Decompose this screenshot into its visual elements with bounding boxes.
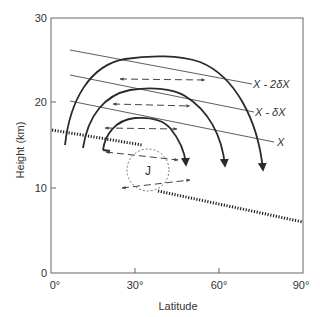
y-tick-30: 30 <box>35 12 47 24</box>
x-tick-0: 0° <box>50 279 61 291</box>
diagram: 0 10 20 30 0° 30° 60° 90° Latitude Heigh… <box>0 0 320 317</box>
tropopause-dotted-line <box>52 130 303 222</box>
x-tick-90: 90° <box>293 279 310 291</box>
x-axis-title: Latitude <box>158 300 197 312</box>
y-tick-10: 10 <box>35 182 47 194</box>
y-axis-title: Height (km) <box>14 122 26 179</box>
x-tick-30: 30° <box>127 279 144 291</box>
y-tick-20: 20 <box>35 96 47 108</box>
mixing-arrows <box>105 79 205 188</box>
isentrope-lines <box>70 50 274 142</box>
plot-frame <box>51 18 303 273</box>
isentrope-label-top: X - 2δX <box>252 78 290 90</box>
isentrope-label-bottom: X <box>276 136 285 148</box>
circulation-arcs <box>65 56 263 170</box>
y-tick-0: 0 <box>41 267 47 279</box>
isentrope-label-middle: X - δX <box>254 106 286 118</box>
x-tick-60: 60° <box>211 279 228 291</box>
jet-label: J <box>145 164 151 178</box>
